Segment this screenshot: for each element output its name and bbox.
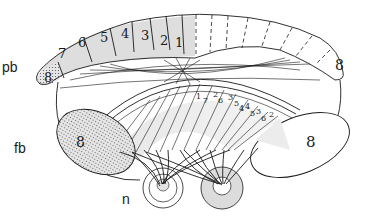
pb-segment-4: 4 [121,26,129,41]
fb-left-lobe-label: 8 [76,134,85,150]
fan-pair-2b: 6 [218,96,223,105]
pb-segment-6: 6 [78,35,86,50]
label-fb: fb [14,140,26,156]
pb-segment-7: 7 [58,46,66,61]
fan-pair-1b: 7 [203,96,208,105]
pb-segment-2: 2 [160,33,168,48]
fb-right-lobe-label: 8 [306,133,316,151]
fan-pair-1a: 1 [196,92,201,101]
fb-left-lobe [45,96,147,188]
pb-segment-3: 3 [141,28,149,43]
protocerebral-bridge: 8 7 6 5 4 3 2 1 8 [36,14,343,85]
central-complex-diagram: 8 7 6 5 4 3 2 1 8 [0,0,367,220]
fan-pair-5a: 5 [250,109,255,118]
pb-segment-5: 5 [100,30,108,45]
fan-pair-4a: 4 [239,104,244,113]
fan-shaped-body: 1 7 2 6 3 5 4 4 5 3 6 2 7 1 8 8 [45,79,359,190]
fan-pair-3a: 3 [228,93,233,102]
fan-pair-6b: 2 [269,110,274,119]
label-n: n [122,191,130,207]
fan-pair-6a: 6 [261,114,266,123]
pb-segment-8-right: 8 [335,57,344,73]
pb-segment-1: 1 [175,35,183,50]
label-pb: pb [2,59,18,75]
pb-segment-8-left: 8 [44,70,52,85]
